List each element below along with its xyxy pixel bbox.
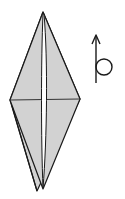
origami-diagram xyxy=(0,0,125,199)
turn-over-icon xyxy=(92,35,112,83)
